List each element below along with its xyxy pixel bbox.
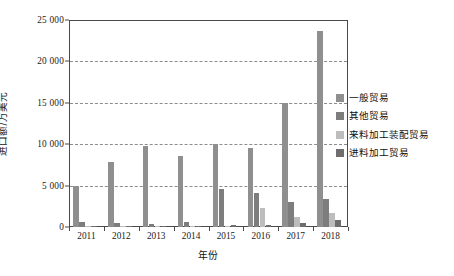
x-tick-mark-2 xyxy=(139,227,140,231)
legend-item-0[interactable]: 一般贸易 xyxy=(336,92,452,103)
x-tick-label-2015: 2015 xyxy=(217,231,236,241)
x-tick-mark-1 xyxy=(104,227,105,231)
legend-item-2[interactable]: 来料加工装配贸易 xyxy=(336,129,452,140)
bar-2015-series-2 xyxy=(225,226,230,227)
bar-2016-series-0 xyxy=(248,148,253,227)
bar-2013-series-1 xyxy=(149,224,154,227)
bar-2018-series-1 xyxy=(323,199,328,227)
bar-2014-series-3 xyxy=(196,226,201,227)
legend-item-3[interactable]: 进料加工贸易 xyxy=(336,148,452,159)
bar-2012-series-3 xyxy=(126,226,131,227)
x-tick-mark-7 xyxy=(313,227,314,231)
bar-2017-series-1 xyxy=(288,202,293,227)
bar-2012-series-0 xyxy=(108,162,113,227)
bar-2014-series-2 xyxy=(190,226,195,227)
x-tick-label-2016: 2016 xyxy=(252,231,271,241)
bar-2011-series-2 xyxy=(85,226,90,227)
x-tick-mark-4 xyxy=(209,227,210,231)
x-tick-mark-3 xyxy=(174,227,175,231)
x-tick-label-2014: 2014 xyxy=(182,231,201,241)
legend-label-3: 进料加工贸易 xyxy=(349,148,409,158)
x-tick-mark-6 xyxy=(278,227,279,231)
bar-chart: 进口额/万美元 05 00010 00015 00020 00025 000 2… xyxy=(0,0,454,276)
bar-2011-series-1 xyxy=(79,222,84,227)
bar-2018-series-3 xyxy=(335,220,340,227)
bar-2018-series-0 xyxy=(317,31,322,227)
bar-2014-series-1 xyxy=(184,222,189,227)
bar-2013-series-0 xyxy=(143,146,148,227)
bar-2016-series-1 xyxy=(254,193,259,227)
x-tick-mark-end xyxy=(348,227,349,231)
bar-2012-series-2 xyxy=(120,226,125,227)
bar-2013-series-3 xyxy=(161,226,166,227)
bar-2013-series-2 xyxy=(155,226,160,227)
legend-label-0: 一般贸易 xyxy=(349,93,389,103)
bar-2018-series-2 xyxy=(329,213,334,227)
chart-legend: 一般贸易其他贸易来料加工装配贸易进料加工贸易 xyxy=(336,92,452,166)
bar-2015-series-1 xyxy=(219,189,224,227)
bar-2012-series-1 xyxy=(114,223,119,227)
x-tick-mark-0 xyxy=(69,227,70,231)
x-tick-label-2013: 2013 xyxy=(147,231,166,241)
legend-label-2: 来料加工装配贸易 xyxy=(349,130,429,140)
x-tick-label-2011: 2011 xyxy=(77,231,95,241)
bar-2015-series-0 xyxy=(213,144,218,227)
x-tick-label-2018: 2018 xyxy=(321,231,340,241)
bar-2016-series-3 xyxy=(266,225,271,227)
bar-2014-series-0 xyxy=(178,156,183,227)
legend-swatch-processing-assembly xyxy=(336,131,344,139)
legend-item-1[interactable]: 其他贸易 xyxy=(336,111,452,122)
bar-2017-series-3 xyxy=(300,223,305,227)
bar-2017-series-2 xyxy=(294,217,299,227)
bar-2011-series-0 xyxy=(73,186,78,227)
bar-2016-series-2 xyxy=(260,208,265,227)
legend-label-1: 其他贸易 xyxy=(349,111,389,121)
bar-2017-series-0 xyxy=(282,103,287,227)
bar-2015-series-3 xyxy=(231,225,236,227)
x-tick-label-2012: 2012 xyxy=(112,231,131,241)
x-axis-title: 年份 xyxy=(198,248,218,262)
x-tick-label-2017: 2017 xyxy=(286,231,305,241)
x-tick-mark-5 xyxy=(243,227,244,231)
legend-swatch-import-processing xyxy=(336,149,344,157)
legend-swatch-other-trade xyxy=(336,112,344,120)
bar-2011-series-3 xyxy=(91,226,96,227)
legend-swatch-general-trade xyxy=(336,94,344,102)
